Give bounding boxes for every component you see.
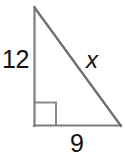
right-triangle-figure: 12 x 9 bbox=[0, 0, 125, 166]
horizontal-leg-label: 9 bbox=[70, 131, 84, 156]
hypotenuse-line bbox=[35, 8, 122, 127]
hypotenuse-label: x bbox=[86, 48, 98, 72]
triangle-graphic bbox=[0, 0, 125, 166]
vertical-leg-label: 12 bbox=[2, 47, 29, 72]
right-angle-marker-icon bbox=[35, 103, 56, 126]
